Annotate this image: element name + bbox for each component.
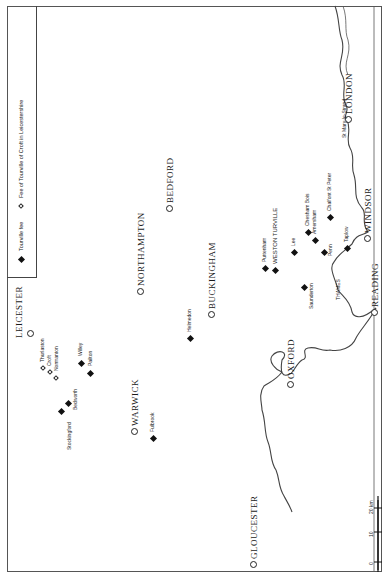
- town-marker-oxford: [287, 381, 294, 388]
- town-label-northampton: NORTHAMPTON: [137, 212, 146, 286]
- town-label-oxford: OXFORD: [287, 339, 296, 379]
- town-label-weston-turville: WESTON TURVILLE: [272, 208, 278, 264]
- town-marker-leicester: [27, 330, 34, 337]
- place-label-helmedon: Helmedon: [187, 309, 192, 332]
- place-label-croft: Croft: [47, 355, 52, 366]
- place-label-pailton: Pailton: [88, 351, 93, 366]
- town-marker-gloucester: [250, 561, 257, 568]
- town-marker-warwick: [131, 428, 138, 435]
- place-label-willey: Willey: [78, 343, 83, 356]
- scale-label-20km: 20 km: [369, 500, 374, 514]
- place-label-fulbrook: Fulbrook: [150, 413, 155, 432]
- place-label-lee: Lee: [291, 238, 296, 246]
- scale-label-10: 10: [369, 531, 374, 537]
- scale-label-0: 0: [369, 562, 374, 565]
- place-label-st-mary: St Mary-le-Strand: [342, 99, 347, 138]
- place-label-taplow: Taplow: [344, 226, 349, 242]
- place-label-stockingford: Stockingford: [67, 422, 72, 450]
- place-label-saunderton: Saunderton: [309, 283, 314, 309]
- place-label-chesham-bois: Chesham Bois: [305, 193, 310, 226]
- town-label-windsor: WINDSOR: [364, 188, 373, 234]
- town-marker-northampton: [137, 288, 144, 295]
- river-label-thames: THAMES: [336, 279, 341, 300]
- place-label-normanton: Normanton: [54, 346, 59, 371]
- town-label-buckingham: BUCKINGHAM: [208, 242, 217, 309]
- thames-river: [0, 0, 388, 576]
- town-label-bedford: BEDFORD: [166, 157, 175, 203]
- place-label-amersham: Amersham: [312, 210, 317, 234]
- place-label-bedworth: Bedworth: [73, 389, 78, 410]
- town-marker-bedford: [166, 205, 173, 212]
- place-label-puttenham: Puttenham: [262, 238, 267, 262]
- town-label-leicester: LEICESTER: [15, 286, 24, 338]
- place-label-thurlaston: Thurlaston: [40, 338, 45, 362]
- town-marker-windsor: [364, 235, 371, 242]
- town-label-gloucester: GLOUCESTER: [250, 496, 259, 560]
- town-label-warwick: WARWICK: [131, 379, 140, 426]
- town-label-reading: READING: [371, 263, 380, 307]
- place-label-penn: Penn: [328, 244, 333, 256]
- place-label-chalfont: Chalfont St Peter: [327, 173, 332, 211]
- town-marker-buckingham: [208, 311, 215, 318]
- town-marker-reading: [371, 309, 378, 316]
